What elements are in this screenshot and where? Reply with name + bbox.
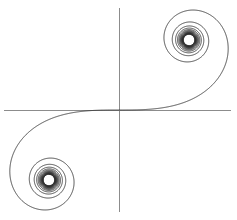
euler-spiral-figure bbox=[0, 0, 237, 220]
plot-canvas bbox=[0, 0, 237, 220]
